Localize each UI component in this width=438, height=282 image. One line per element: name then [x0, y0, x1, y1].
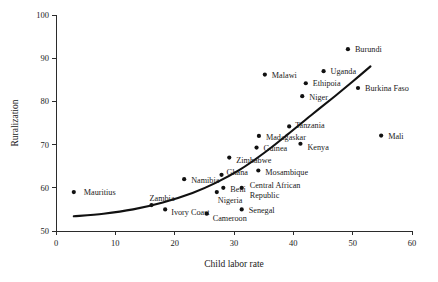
- data-point-niger[interactable]: [300, 94, 304, 98]
- x-tick-label-40: 40: [289, 238, 298, 248]
- data-point-burkina-faso[interactable]: [356, 86, 360, 90]
- data-label-uganda: Uganda: [331, 67, 357, 76]
- data-point-senegal[interactable]: [240, 207, 244, 211]
- data-point-malawi[interactable]: [263, 73, 267, 77]
- data-label-ghana: Ghana: [227, 168, 249, 177]
- data-point-uganda[interactable]: [321, 69, 325, 73]
- data-point-nigeria[interactable]: [215, 190, 219, 194]
- plot-canvas: 50607080901000102030405060 MauritiusZamb…: [0, 0, 438, 282]
- data-label-tanzania: Tanzania: [295, 121, 325, 130]
- x-tick-label-0: 0: [54, 238, 58, 248]
- data-label-madagaskar: Madagaskar: [266, 133, 306, 142]
- x-tick-label-50: 50: [348, 238, 357, 248]
- trend-curve-group: [74, 66, 371, 216]
- data-label-mosambique: Mosambique: [265, 168, 308, 177]
- data-points-group: MauritiusZambiaIvory CoastNamibiaCameroo…: [72, 45, 409, 223]
- y-axis-title: Ruralization: [10, 99, 20, 146]
- data-point-guinea[interactable]: [254, 146, 258, 150]
- y-tick-label-90: 90: [41, 53, 50, 63]
- data-point-ethipoia[interactable]: [304, 81, 308, 85]
- x-tick-label-10: 10: [111, 238, 120, 248]
- data-label-beni: Beni: [230, 185, 246, 194]
- data-label-burkina-faso: Burkina Faso: [365, 84, 409, 93]
- data-label-central-african-republic-line2: Republic: [250, 191, 280, 200]
- data-point-central-african[interactable]: [240, 186, 244, 190]
- data-point-ivory-coast[interactable]: [163, 207, 167, 211]
- y-tick-label-80: 80: [41, 96, 50, 106]
- data-point-beni[interactable]: [221, 186, 225, 190]
- data-label-central-african: Central African: [250, 181, 301, 190]
- data-label-zimbabwe: Zimbabwe: [236, 156, 271, 165]
- data-label-burundi: Burundi: [355, 45, 383, 54]
- data-point-zimbabwe[interactable]: [227, 155, 231, 159]
- y-tick-label-70: 70: [41, 140, 50, 150]
- x-tick-label-30: 30: [230, 238, 239, 248]
- data-label-zambia: Zambia: [150, 194, 175, 203]
- data-point-zambia[interactable]: [149, 203, 153, 207]
- data-label-cameroon: Cameroon: [213, 214, 247, 223]
- x-tick-label-60: 60: [408, 238, 417, 248]
- data-point-mosambique[interactable]: [256, 168, 260, 172]
- x-axis-title: Child labor rate: [204, 259, 264, 269]
- trend-curve: [74, 66, 371, 216]
- y-tick-label-100: 100: [36, 10, 49, 20]
- data-point-madagaskar[interactable]: [257, 134, 261, 138]
- y-tick-label-50: 50: [41, 226, 50, 236]
- data-point-tanzania[interactable]: [287, 124, 291, 128]
- data-label-niger: Niger: [309, 93, 328, 102]
- data-label-nigeria: Nigeria: [218, 196, 243, 205]
- data-label-guinea: Guinea: [264, 144, 288, 153]
- data-label-namibia: Namibia: [191, 176, 220, 185]
- data-point-namibia[interactable]: [182, 177, 186, 181]
- x-tick-label-20: 20: [170, 238, 179, 248]
- y-tick-label-60: 60: [41, 183, 50, 193]
- scatter-chart-figure: 50607080901000102030405060 MauritiusZamb…: [0, 0, 438, 282]
- data-label-senegal: Senegal: [249, 206, 276, 215]
- data-point-kenya[interactable]: [298, 142, 302, 146]
- data-point-mauritius[interactable]: [72, 190, 76, 194]
- data-label-malawi: Malawi: [272, 71, 298, 80]
- data-label-kenya: Kenya: [307, 143, 329, 152]
- data-point-cameroon[interactable]: [205, 212, 209, 216]
- data-label-mauritius: Mauritius: [84, 188, 116, 197]
- data-label-mali: Mali: [388, 132, 404, 141]
- data-point-mali[interactable]: [379, 133, 383, 137]
- data-label-ivory-coast: Ivory Coast: [171, 208, 210, 217]
- data-point-ghana[interactable]: [219, 173, 223, 177]
- data-label-ethipoia: Ethipoia: [313, 79, 341, 88]
- data-point-burundi[interactable]: [346, 47, 350, 51]
